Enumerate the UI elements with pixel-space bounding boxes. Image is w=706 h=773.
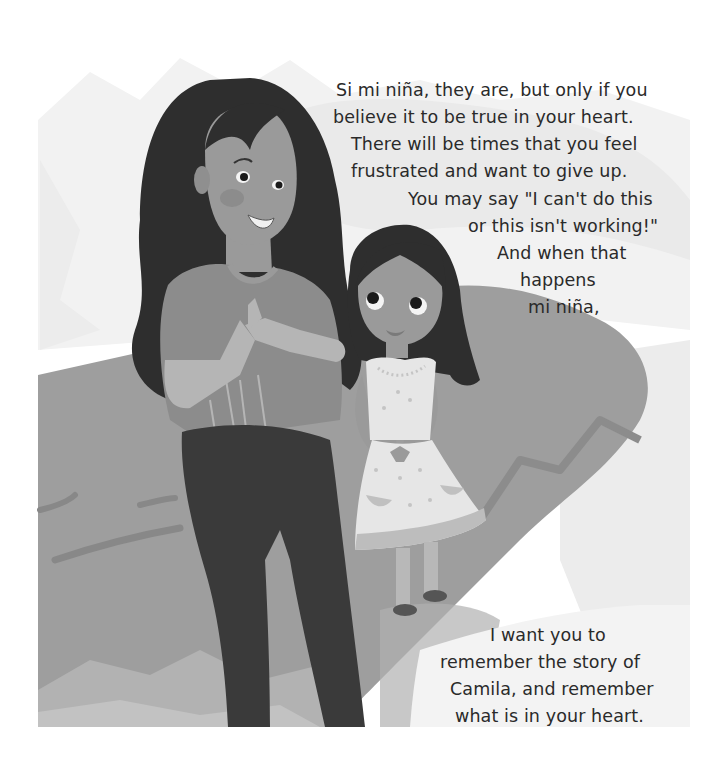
text-line: what is in your heart. — [455, 703, 644, 729]
text-line: You may say "I can't do this — [408, 186, 653, 212]
text-line: remember the story of — [440, 649, 640, 675]
text-line: There will be times that you feel — [351, 131, 637, 157]
text-line: I want you to — [490, 622, 606, 648]
text-line: Camila, and remember — [450, 676, 654, 702]
text-line: frustrated and want to give up. — [351, 158, 627, 184]
story-page: Si mi niña, they are, but only if you be… — [0, 0, 706, 773]
text-line: or this isn't working!" — [468, 213, 658, 239]
text-line: mi niña, — [528, 294, 600, 320]
text-line: And when that — [497, 240, 626, 266]
text-line: Si mi niña, they are, but only if you — [336, 77, 648, 103]
text-line: believe it to be true in your heart. — [333, 104, 634, 130]
text-line: happens — [520, 267, 596, 293]
